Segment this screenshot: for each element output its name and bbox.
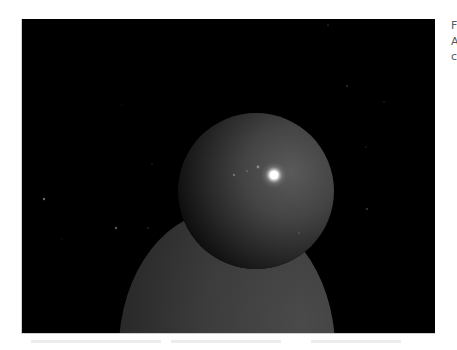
- side-text-line: A: [451, 34, 457, 50]
- caption-text-edge: [311, 340, 401, 343]
- caption-fragment: [21, 340, 435, 350]
- caption-text-edge: [171, 340, 281, 343]
- planet-sphere: [178, 113, 334, 269]
- side-text-line: c: [451, 49, 457, 65]
- page: F A c: [0, 0, 457, 350]
- small-light-point: [257, 166, 260, 169]
- side-text-fragment: F A c: [451, 18, 457, 65]
- space-scene: [22, 19, 435, 334]
- caption-text-edge: [31, 340, 161, 343]
- space-image: [21, 19, 435, 334]
- side-text-line: F: [451, 18, 457, 34]
